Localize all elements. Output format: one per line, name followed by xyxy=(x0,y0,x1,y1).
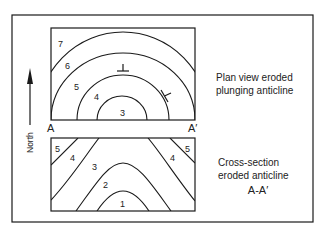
section-unit-label-3: 3 xyxy=(92,162,97,172)
section-caption-line-2: eroded anticline xyxy=(218,169,298,182)
section-unit-label-4-right: 4 xyxy=(170,153,175,163)
section-caption-line-3: A-A′ xyxy=(218,184,298,197)
north-label: North xyxy=(25,132,35,153)
unit-label-6: 6 xyxy=(65,61,70,71)
unit-label-4: 4 xyxy=(94,92,99,102)
section-unit-label-5-right: 5 xyxy=(185,144,190,154)
plan-view-frame xyxy=(51,28,195,120)
unit-label-3: 3 xyxy=(120,108,125,118)
plan-caption-line-2: plunging anticline xyxy=(216,84,293,97)
section-point-a: A xyxy=(47,122,55,134)
section-unit-label-2: 2 xyxy=(103,180,108,190)
plan-caption-line-1: Plan view eroded xyxy=(216,71,293,84)
unit-label-7: 7 xyxy=(58,39,63,49)
section-caption-line-1: Cross-section xyxy=(218,156,298,169)
strike-dip-symbol-north xyxy=(117,64,129,71)
geology-figure: 7 6 5 4 3 A A′ 5 4 xyxy=(0,0,323,231)
north-arrow: North xyxy=(25,68,35,153)
cross-section-caption: Cross-section eroded anticline A-A′ xyxy=(218,156,298,197)
section-point-a-prime: A′ xyxy=(188,122,197,134)
section-unit-label-1: 1 xyxy=(120,199,125,209)
plan-view-caption: Plan view eroded plunging anticline xyxy=(216,71,293,97)
section-unit-label-5-left: 5 xyxy=(55,144,60,154)
section-unit-label-4-left: 4 xyxy=(70,153,75,163)
cross-section-diagram: 5 4 3 2 1 4 5 xyxy=(51,138,195,211)
arrow-up-icon xyxy=(27,68,33,84)
plan-view-map: 7 6 5 4 3 xyxy=(37,28,209,208)
unit-label-5: 5 xyxy=(74,82,79,92)
